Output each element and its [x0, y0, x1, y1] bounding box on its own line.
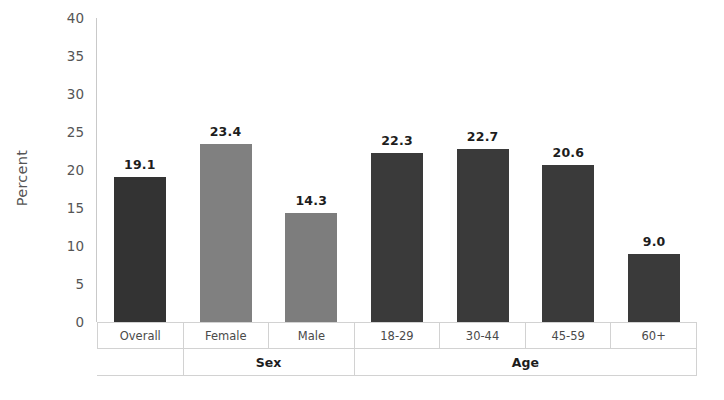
bar[interactable]: [371, 153, 423, 322]
bar-slot: 23.4: [183, 18, 269, 322]
group-cell-empty: [98, 349, 184, 376]
y-tick-label: 20: [40, 162, 84, 178]
category-cell: Overall: [98, 323, 184, 349]
bar-slot: 20.6: [526, 18, 612, 322]
category-cell: 60+: [611, 323, 697, 349]
y-tick-label: 25: [40, 124, 84, 140]
bar-slot: 9.0: [611, 18, 697, 322]
y-tick-label: 35: [40, 48, 84, 64]
bar-slot: 14.3: [268, 18, 354, 322]
bar[interactable]: [457, 149, 509, 322]
bar[interactable]: [542, 165, 594, 322]
category-cell: 18-29: [354, 323, 440, 349]
y-tick-label: 5: [40, 276, 84, 292]
bar-value-label: 19.1: [124, 157, 156, 172]
y-axis-tick-labels: 0510152025303540: [40, 18, 90, 322]
bar-value-label: 23.4: [210, 124, 242, 139]
group-cell: Sex: [183, 349, 354, 376]
bar-value-label: 22.3: [381, 133, 413, 148]
bar-slot: 19.1: [97, 18, 183, 322]
category-table: OverallFemaleMale18-2930-4445-5960+ SexA…: [97, 322, 697, 376]
y-tick-label: 30: [40, 86, 84, 102]
y-axis-title: Percent: [10, 118, 34, 238]
category-cell: Male: [269, 323, 355, 349]
bar-chart-figure: Percent 0510152025303540 19.123.414.322.…: [0, 0, 724, 400]
y-tick-label: 10: [40, 238, 84, 254]
category-cell: 45-59: [525, 323, 611, 349]
bar-value-label: 22.7: [467, 129, 499, 144]
group-label-row: SexAge: [98, 349, 697, 376]
bar-value-label: 14.3: [295, 193, 327, 208]
y-tick-label: 15: [40, 200, 84, 216]
y-tick-label: 40: [40, 10, 84, 26]
bar-slot: 22.7: [440, 18, 526, 322]
y-tick-label: 0: [40, 314, 84, 330]
bar[interactable]: [628, 254, 680, 322]
category-label-row: OverallFemaleMale18-2930-4445-5960+: [98, 323, 697, 349]
bar-slot: 22.3: [354, 18, 440, 322]
plot-area: 19.123.414.322.322.720.69.0: [97, 18, 697, 322]
bar-value-label: 20.6: [553, 145, 585, 160]
bar-value-label: 9.0: [643, 234, 666, 249]
category-cell: 30-44: [440, 323, 526, 349]
bar[interactable]: [285, 213, 337, 322]
bar[interactable]: [114, 177, 166, 322]
bar[interactable]: [200, 144, 252, 322]
group-cell: Age: [354, 349, 696, 376]
category-cell: Female: [183, 323, 269, 349]
